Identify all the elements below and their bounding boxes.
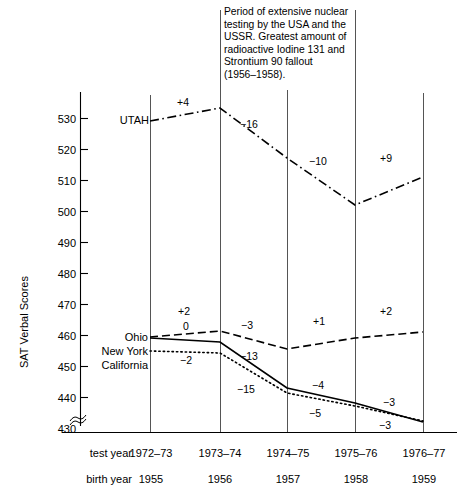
y-tick-label-530: 530	[42, 113, 76, 125]
delta-utah-1: +4	[177, 96, 189, 108]
delta-ohio-1: +2	[178, 305, 190, 317]
annotation-line-5: Strontium 90 fallout	[224, 56, 360, 69]
delta-ohio-4: +2	[380, 305, 392, 317]
x-category-1976-77: 1976–77	[390, 447, 457, 459]
annotation-line-1: Period of extensive nuclear	[224, 6, 360, 19]
sat-verbal-scores-chart: SAT Verbal Scores 530 520 510 500 490 48…	[0, 0, 457, 497]
y-tick-label-460: 460	[42, 330, 76, 342]
delta-california-1: −2	[180, 354, 192, 366]
x-category-1973-74: 1973–74	[186, 447, 254, 459]
x-secondary-1957: 1957	[254, 473, 322, 485]
series-label-california: California	[68, 359, 148, 371]
y-tick-label-470: 470	[42, 299, 76, 311]
y-axis-title: SAT Verbal Scores	[18, 276, 30, 368]
series-label-new-york: New York	[68, 345, 148, 357]
y-tick-label-490: 490	[42, 237, 76, 249]
y-tick-label-440: 440	[42, 392, 76, 404]
delta-new-york-4: −3	[383, 396, 395, 408]
annotation-line-2: testing by the USA and the	[224, 19, 360, 32]
annotation-line-6: (1956–1958).	[224, 69, 360, 82]
delta-new-york-1: 0	[183, 320, 189, 332]
delta-utah-2: −16	[240, 118, 258, 130]
x-category-1972-73: 1972–73	[117, 447, 185, 459]
x-secondary-1959: 1959	[390, 473, 457, 485]
y-tick-label-510: 510	[42, 175, 76, 187]
x-secondary-1955: 1955	[117, 473, 185, 485]
annotation-line-4: radioactive Iodine 131 and	[224, 44, 360, 57]
delta-utah-4: +9	[380, 152, 392, 164]
delta-ohio-2: −3	[241, 319, 253, 331]
delta-california-2: −15	[237, 383, 255, 395]
delta-utah-3: −10	[309, 155, 327, 167]
series-label-ohio: Ohio	[88, 331, 148, 343]
delta-california-4: −3	[379, 419, 391, 431]
delta-new-york-2: −13	[240, 350, 258, 362]
annotation-line-3: USSR. Greatest amount of	[224, 31, 360, 44]
series-line-california	[150, 338, 423, 422]
delta-california-3: −5	[309, 407, 321, 419]
x-secondary-1958: 1958	[322, 473, 390, 485]
x-category-1975-76: 1975–76	[322, 447, 390, 459]
y-tick-label-520: 520	[42, 144, 76, 156]
x-category-1974-75: 1974–75	[254, 447, 322, 459]
x-secondary-1956: 1956	[186, 473, 254, 485]
delta-new-york-3: −4	[312, 379, 324, 391]
nuclear-testing-annotation: Period of extensive nuclear testing by t…	[224, 6, 360, 81]
y-tick-label-480: 480	[42, 268, 76, 280]
delta-ohio-3: +1	[313, 315, 325, 327]
y-tick-label-500: 500	[42, 206, 76, 218]
y-tick-label-430: 430	[42, 423, 76, 435]
series-label-utah: UTAH	[97, 114, 149, 126]
